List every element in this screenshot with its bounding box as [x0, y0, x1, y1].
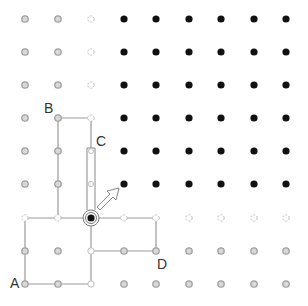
gray-dot [251, 248, 257, 254]
black-dot [120, 48, 127, 55]
black-dot [250, 147, 257, 154]
black-dot [282, 114, 289, 121]
gray-dot [153, 281, 159, 287]
black-dot [120, 147, 127, 154]
black-dot [152, 48, 159, 55]
gray-dot [55, 181, 61, 187]
gray-dot [55, 281, 61, 287]
gray-dot [22, 248, 28, 254]
black-dot [282, 81, 289, 88]
black-dot [282, 147, 289, 154]
black-dot [250, 114, 257, 121]
black-dot [250, 15, 257, 22]
black-dot [217, 147, 224, 154]
gray-dot [251, 281, 257, 287]
gray-dot [22, 82, 28, 88]
black-dot [217, 114, 224, 121]
current-position-dot [87, 214, 94, 221]
dashed-dot [88, 16, 94, 22]
gray-dot [55, 82, 61, 88]
gray-dot [55, 49, 61, 55]
gray-dot [283, 281, 289, 287]
gray-dot [22, 16, 28, 22]
black-dot [152, 180, 159, 187]
black-dot [250, 81, 257, 88]
dashed-dot [186, 215, 192, 221]
label-a: A [10, 275, 19, 291]
black-dot [152, 81, 159, 88]
gray-dot [121, 281, 127, 287]
dashed-dot [88, 49, 94, 55]
black-dot [152, 147, 159, 154]
gray-dot [55, 248, 61, 254]
dashed-dot [218, 215, 224, 221]
dashed-dot [88, 82, 94, 88]
black-dot [282, 15, 289, 22]
gray-dot [121, 248, 127, 254]
gray-dot [22, 281, 28, 287]
black-dot [185, 180, 192, 187]
gray-dot [153, 248, 159, 254]
gray-dot [55, 148, 61, 154]
gray-dot [218, 248, 224, 254]
black-dot [120, 114, 127, 121]
black-dot [217, 48, 224, 55]
white-dot [88, 281, 94, 287]
gray-dot [22, 148, 28, 154]
black-dot [250, 180, 257, 187]
black-dot [152, 114, 159, 121]
black-dot [217, 81, 224, 88]
black-dot [185, 147, 192, 154]
white-dot [89, 182, 94, 187]
black-dot [152, 15, 159, 22]
black-dot [185, 48, 192, 55]
dashed-dot [121, 215, 127, 221]
diagonal-arrow-icon [97, 188, 119, 210]
gray-dot [55, 115, 61, 121]
gray-dot [55, 16, 61, 22]
black-dot [185, 15, 192, 22]
label-b: B [44, 100, 53, 116]
up-arrow-icon [87, 148, 95, 210]
black-dot [217, 15, 224, 22]
gray-dot [186, 281, 192, 287]
white-dot [88, 248, 94, 254]
dashed-dot [55, 215, 61, 221]
black-dot [120, 15, 127, 22]
grid-diagram [0, 0, 308, 306]
dashed-dot [153, 215, 159, 221]
label-c: C [96, 133, 106, 149]
black-dot [185, 81, 192, 88]
gray-dot [186, 248, 192, 254]
black-dot [217, 180, 224, 187]
dashed-dot [283, 215, 289, 221]
black-dot [282, 48, 289, 55]
black-dot [185, 114, 192, 121]
gray-dot [218, 281, 224, 287]
label-d: D [157, 256, 167, 272]
dashed-dot [88, 115, 94, 121]
black-dot [120, 81, 127, 88]
black-dot [120, 180, 127, 187]
black-dot [250, 48, 257, 55]
black-dot [282, 180, 289, 187]
dashed-dot [251, 215, 257, 221]
dashed-dot [22, 215, 28, 221]
gray-dot [22, 181, 28, 187]
gray-dot [283, 248, 289, 254]
white-dot [89, 149, 94, 154]
gray-dot [22, 115, 28, 121]
gray-dot [22, 49, 28, 55]
